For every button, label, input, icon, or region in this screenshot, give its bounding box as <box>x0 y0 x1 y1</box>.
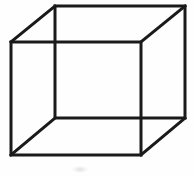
cube-edge-connector-top-right <box>141 6 185 42</box>
cube-edge-connector-bottom-left <box>11 118 55 155</box>
cube-drawing <box>0 0 193 176</box>
cube-edge-connector-bottom-right <box>141 118 185 155</box>
cube-edge-connector-top-left <box>11 6 55 42</box>
necker-cube-figure: Necker cube <box>0 0 193 176</box>
